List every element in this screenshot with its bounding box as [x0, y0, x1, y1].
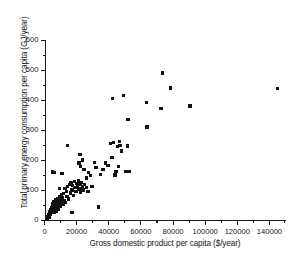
x-tick-mark	[44, 221, 45, 225]
x-minor-tick-mark	[189, 221, 190, 224]
data-point	[169, 86, 172, 89]
data-point	[53, 171, 56, 174]
y-minor-tick-mark	[43, 115, 46, 116]
y-tick-label: 500	[9, 65, 39, 74]
y-tick-mark	[41, 190, 45, 191]
data-point	[81, 158, 84, 161]
data-point	[67, 197, 70, 200]
y-tick-mark	[41, 100, 45, 101]
data-point	[64, 201, 67, 204]
x-minor-tick-mark	[284, 221, 285, 224]
x-tick-mark	[173, 221, 174, 225]
data-point	[97, 205, 100, 208]
x-tick-mark	[108, 221, 109, 225]
data-point	[66, 144, 69, 147]
data-point	[112, 141, 115, 144]
data-point	[78, 153, 81, 156]
y-minor-tick-mark	[43, 175, 46, 176]
x-minor-tick-mark	[60, 221, 61, 224]
y-minor-tick-mark	[43, 85, 46, 86]
x-minor-tick-mark	[124, 221, 125, 224]
data-point	[110, 156, 113, 159]
data-point	[117, 165, 120, 168]
data-point	[106, 164, 109, 167]
y-tick-mark	[41, 40, 45, 41]
data-point	[86, 190, 89, 193]
y-tick-label: 400	[9, 95, 39, 104]
data-point	[111, 97, 114, 100]
data-point	[99, 173, 102, 176]
x-tick-mark	[205, 221, 206, 225]
x-tick-mark	[269, 221, 270, 225]
data-point	[118, 140, 121, 143]
data-point	[145, 125, 148, 128]
data-point	[60, 172, 63, 175]
plot-area: 0100200300400500600020000400006000080000…	[0, 0, 300, 264]
data-point	[159, 107, 162, 110]
y-tick-label: 300	[9, 125, 39, 134]
x-axis-line	[45, 220, 286, 221]
data-point	[114, 170, 117, 173]
data-point	[90, 185, 93, 188]
y-tick-label: 100	[9, 185, 39, 194]
data-point	[145, 101, 148, 104]
data-point	[89, 174, 92, 177]
data-point	[70, 211, 73, 214]
data-point	[85, 176, 88, 179]
x-tick-label: 140000	[247, 227, 291, 236]
x-tick-mark	[140, 221, 141, 225]
y-tick-label: 0	[9, 215, 39, 224]
x-minor-tick-mark	[92, 221, 93, 224]
data-point	[126, 118, 129, 121]
data-point	[68, 183, 71, 186]
y-tick-mark	[41, 160, 45, 161]
scatter-chart-figure: Total primary energy consumption per cap…	[0, 0, 300, 264]
data-point	[276, 87, 279, 90]
x-minor-tick-mark	[156, 221, 157, 224]
y-tick-label: 600	[9, 35, 39, 44]
y-minor-tick-mark	[43, 205, 46, 206]
data-point	[94, 166, 97, 169]
data-point	[85, 186, 88, 189]
y-minor-tick-mark	[43, 55, 46, 56]
data-point	[118, 144, 121, 147]
x-tick-mark	[76, 221, 77, 225]
x-tick-mark	[237, 221, 238, 225]
data-point	[122, 94, 125, 97]
data-point	[101, 168, 104, 171]
data-point	[58, 187, 61, 190]
y-tick-mark	[41, 70, 45, 71]
data-point	[126, 144, 129, 147]
data-point	[93, 161, 96, 164]
x-minor-tick-mark	[253, 221, 254, 224]
y-tick-mark	[41, 130, 45, 131]
data-point	[188, 104, 191, 107]
data-point	[113, 173, 116, 176]
data-point	[72, 194, 75, 197]
data-point	[161, 71, 164, 74]
y-minor-tick-mark	[43, 145, 46, 146]
data-point	[120, 149, 123, 152]
data-point	[127, 170, 130, 173]
data-point	[82, 168, 85, 171]
y-tick-label: 200	[9, 155, 39, 164]
x-minor-tick-mark	[221, 221, 222, 224]
